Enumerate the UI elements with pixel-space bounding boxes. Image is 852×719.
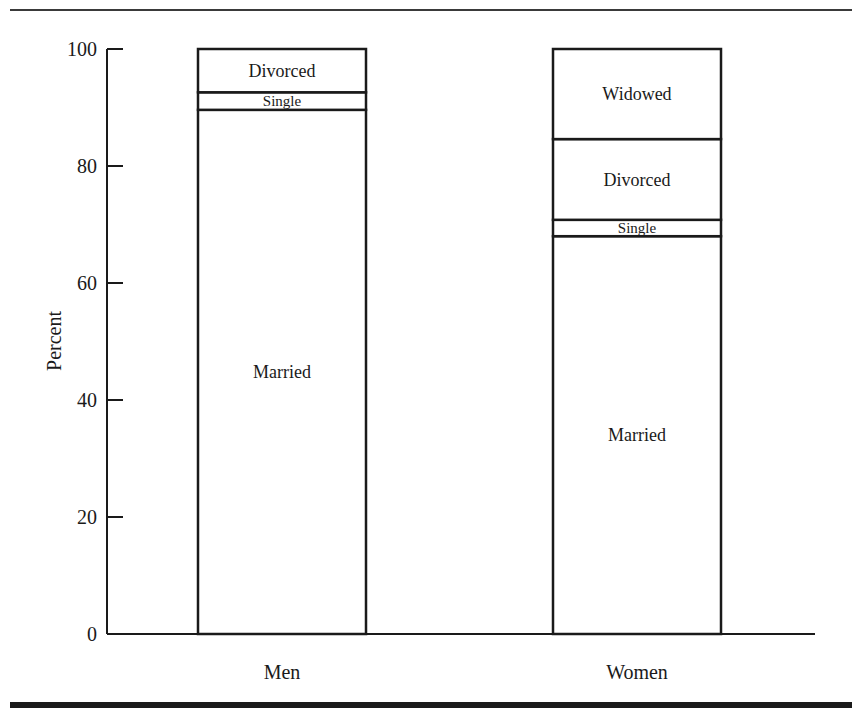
y-tick-label: 40 xyxy=(77,389,97,411)
bottom-rule xyxy=(10,702,852,708)
y-axis-label: Percent xyxy=(43,311,65,371)
y-tick-label: 100 xyxy=(67,38,97,60)
segment-label: Divorced xyxy=(604,170,671,190)
stacked-bar-chart: 020406080100PercentMarriedSingleDivorced… xyxy=(0,0,852,719)
segment-label: Single xyxy=(618,220,657,236)
y-tick-label: 60 xyxy=(77,272,97,294)
segment-label: Married xyxy=(608,425,666,445)
segment-label: Single xyxy=(263,93,302,109)
y-tick-label: 0 xyxy=(87,623,97,645)
x-category-label: Women xyxy=(606,661,668,683)
segment-label: Divorced xyxy=(249,61,316,81)
segment-label: Married xyxy=(253,362,311,382)
segment-label: Widowed xyxy=(602,84,671,104)
x-category-label: Men xyxy=(264,661,301,683)
y-tick-label: 20 xyxy=(77,506,97,528)
y-tick-label: 80 xyxy=(77,155,97,177)
